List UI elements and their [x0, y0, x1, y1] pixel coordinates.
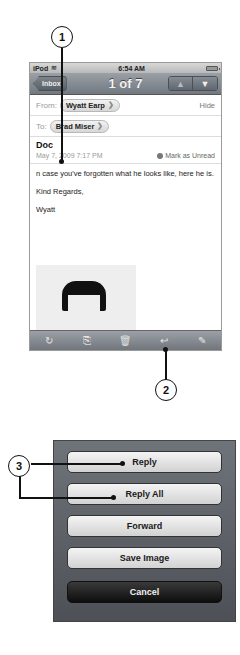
message-nav-arrows: ▲ ▼ [168, 76, 218, 91]
refresh-icon[interactable]: ↻ [39, 335, 59, 346]
nav-bar: Inbox 1 of 7 ▲ ▼ [30, 73, 221, 95]
attached-image[interactable] [36, 265, 136, 331]
to-row: To: Brad Miser ❯ [30, 116, 221, 137]
sender-name: Wyatt Earp [66, 101, 105, 110]
mail-toolbar: ↻ ⎘ 🗑 ↩ ✎ [30, 330, 221, 350]
mark-as-unread-button[interactable]: Mark as Unread [157, 152, 215, 159]
callout-3: 3 [8, 455, 30, 477]
message-subject: Doc [36, 140, 215, 150]
unread-dot-icon [157, 153, 163, 159]
trash-icon[interactable]: 🗑 [115, 335, 135, 346]
image-face-shape [68, 295, 100, 331]
status-bar: iPod ≋ 6:54 AM [30, 63, 221, 73]
to-label: To: [36, 122, 47, 131]
compose-icon[interactable]: ✎ [192, 335, 212, 346]
from-label: From: [36, 101, 57, 110]
cancel-button[interactable]: Cancel [67, 581, 222, 603]
body-paragraph: n case you've forgotten what he looks li… [36, 169, 215, 179]
body-paragraph: Wyatt [36, 205, 215, 215]
clock: 6:54 AM [118, 65, 145, 72]
chevron-right-icon: ❯ [108, 101, 114, 109]
reply-action-sheet: Reply Reply All Forward Save Image Cance… [53, 440, 236, 622]
reply-button[interactable]: Reply [67, 451, 222, 473]
sender-pill[interactable]: Wyatt Earp ❯ [60, 99, 120, 112]
move-folder-icon[interactable]: ⎘ [77, 335, 97, 347]
mail-screen: iPod ≋ 6:54 AM Inbox 1 of 7 ▲ ▼ From: Wy… [29, 62, 222, 351]
message-body: n case you've forgotten what he looks li… [30, 164, 221, 228]
callout-3-dot-reply [120, 461, 125, 466]
forward-button[interactable]: Forward [67, 515, 222, 537]
callout-3-leader-reply [31, 463, 122, 465]
battery-icon [206, 66, 218, 71]
callout-2-leader [165, 350, 167, 380]
callout-3-leader-down [19, 476, 21, 498]
wifi-icon: ≋ [51, 64, 57, 72]
callout-1: 1 [51, 26, 73, 48]
reply-all-button[interactable]: Reply All [67, 483, 222, 505]
reply-icon[interactable]: ↩ [154, 335, 174, 346]
from-row: From: Wyatt Earp ❯ Hide [30, 95, 221, 116]
body-paragraph: Kind Regards, [36, 187, 215, 197]
carrier-label: iPod [33, 65, 48, 72]
callout-1-leader [61, 48, 63, 162]
hide-details-link[interactable]: Hide [200, 101, 215, 110]
recipient-pill[interactable]: Brad Miser ❯ [50, 120, 110, 133]
save-image-button[interactable]: Save Image [67, 547, 222, 569]
chevron-right-icon: ❯ [97, 122, 103, 130]
callout-3-dot-reply-all [111, 495, 116, 500]
previous-message-icon[interactable]: ▲ [169, 77, 193, 90]
callout-2: 2 [155, 379, 177, 401]
callout-1-dot [59, 159, 64, 164]
next-message-icon[interactable]: ▼ [193, 77, 217, 90]
message-date: May 7, 2009 7:17 PM [36, 152, 103, 159]
callout-3-leader-reply-all [19, 497, 113, 499]
mark-as-unread-label: Mark as Unread [165, 152, 215, 159]
